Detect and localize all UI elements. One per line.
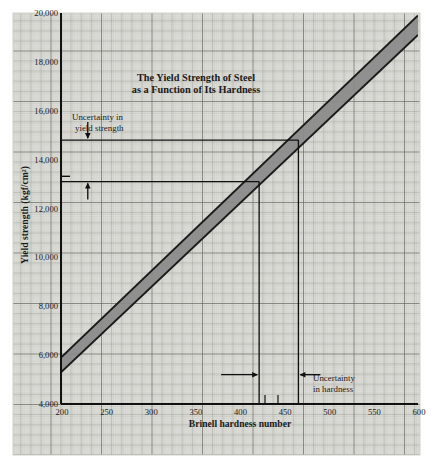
chart-svg: 4,0006,0008,00010,00012,00014,00016,0001…: [0, 0, 433, 468]
y-tick-label-20000: 20,000: [34, 8, 58, 18]
x-tick-label-500: 500: [323, 407, 336, 417]
x-tick-label-300: 300: [145, 407, 158, 417]
x-tick-labels: 200250300350400450500550600: [56, 407, 426, 417]
x-tick-label-600: 600: [413, 407, 426, 417]
y-tick-label-14000: 14,000: [34, 155, 58, 165]
uncertainty-hardness-label-line-2: in hardness: [313, 384, 354, 394]
uncertainty-yield-label-line-2: yield strength: [75, 123, 124, 133]
x-tick-label-250: 250: [100, 407, 113, 417]
y-tick-label-10000: 10,000: [34, 252, 58, 262]
uncertainty-yield-label-line-1: Uncertainty in: [72, 112, 124, 122]
y-tick-label-12000: 12,000: [34, 204, 58, 214]
y-tick-label-8000: 8,000: [39, 301, 58, 311]
x-tick-label-450: 450: [279, 407, 292, 417]
y-tick-label-6000: 6,000: [39, 350, 58, 360]
uncertainty-hardness-label-line-1: Uncertainty: [313, 373, 355, 383]
x-tick-label-550: 550: [368, 407, 381, 417]
x-axis-label: Brinell hardness number: [189, 418, 292, 429]
chart-title-line-1: The Yield Strength of Steel: [137, 72, 255, 83]
chart-figure: 4,0006,0008,00010,00012,00014,00016,0001…: [0, 0, 433, 468]
x-tick-label-400: 400: [234, 407, 247, 417]
x-tick-label-200: 200: [56, 407, 69, 417]
y-tick-label-16000: 16,000: [34, 106, 58, 116]
y-tick-label-18000: 18,000: [34, 57, 58, 67]
figure-page: 4,0006,0008,00010,00012,00014,00016,0001…: [0, 0, 433, 468]
y-axis-label: Yield strength (kgf/cm²): [19, 166, 31, 264]
chart-title-line-2: as a Function of Its Hardness: [132, 84, 260, 95]
x-tick-label-350: 350: [189, 407, 202, 417]
